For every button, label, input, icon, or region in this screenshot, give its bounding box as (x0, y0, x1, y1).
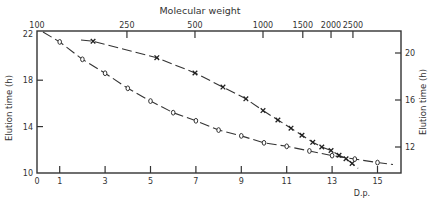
svg-text:500: 500 (187, 21, 202, 30)
right-axis-title: Elution time (h) (418, 69, 428, 135)
svg-text:1: 1 (57, 177, 62, 186)
bottom-axis-title: D.p. (354, 189, 370, 198)
svg-text:13: 13 (327, 177, 337, 186)
svg-text:0: 0 (34, 177, 39, 186)
svg-text:250: 250 (119, 21, 134, 30)
svg-text:2000: 2000 (321, 21, 341, 30)
top-axis-title: Molecular weight (159, 5, 240, 16)
data-series (43, 32, 393, 168)
left-axis-title: Elution time (h) (4, 75, 14, 141)
svg-text:11: 11 (282, 177, 292, 186)
svg-text:16: 16 (405, 96, 415, 105)
plot-frame (37, 31, 401, 173)
chart: 0135791113151014182210025050010001500200… (0, 0, 434, 202)
svg-text:10: 10 (23, 169, 33, 178)
svg-text:20: 20 (405, 49, 415, 58)
svg-text:9: 9 (239, 177, 244, 186)
svg-text:15: 15 (372, 177, 382, 186)
svg-text:5: 5 (148, 177, 153, 186)
svg-text:1000: 1000 (253, 21, 273, 30)
svg-text:18: 18 (23, 76, 33, 85)
svg-text:12: 12 (405, 143, 415, 152)
svg-text:14: 14 (23, 123, 33, 132)
svg-text:22: 22 (23, 30, 33, 39)
svg-text:100: 100 (29, 21, 44, 30)
svg-text:1500: 1500 (293, 21, 313, 30)
svg-text:2500: 2500 (343, 21, 363, 30)
svg-text:3: 3 (103, 177, 108, 186)
svg-text:7: 7 (193, 177, 198, 186)
